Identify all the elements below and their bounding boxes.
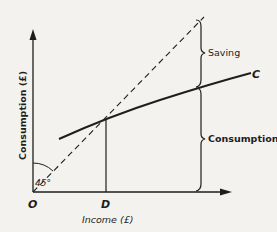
saving-brace: [196, 20, 205, 87]
angle-label: 45°: [35, 178, 51, 188]
consumption-diagram: Saving Consumption C O D Income (£) 45° …: [0, 0, 277, 232]
consumption-brace: [196, 88, 205, 191]
curve-label: C: [252, 68, 260, 81]
y-axis-arrow-icon: [30, 29, 37, 40]
saving-label: Saving: [208, 47, 240, 58]
x-axis-label: Income (£): [82, 214, 133, 225]
y-axis: [30, 29, 37, 192]
y-axis-label: Consumption (£): [17, 71, 28, 160]
point-d-label: D: [101, 198, 110, 211]
forty-five-degree-line: [33, 17, 204, 192]
consumption-label: Consumption: [208, 133, 277, 144]
x-axis: [33, 189, 232, 196]
origin-label: O: [28, 198, 37, 211]
x-axis-arrow-icon: [220, 189, 232, 196]
angle-arc: [33, 163, 53, 171]
consumption-curve: [59, 73, 251, 139]
